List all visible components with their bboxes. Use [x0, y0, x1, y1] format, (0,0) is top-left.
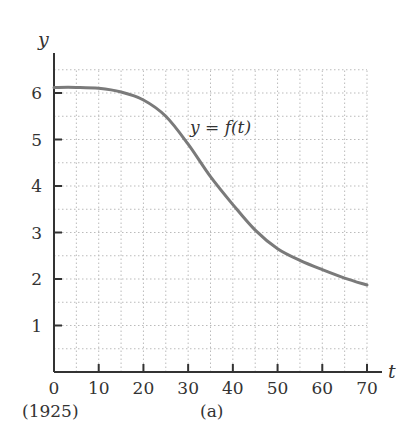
x-tick-label: 30 [177, 378, 199, 398]
curve-label: y = f(t) [189, 117, 251, 137]
y-tick-label: 1 [31, 316, 42, 336]
y-tick-label: 3 [31, 223, 42, 243]
x-tick-label: 60 [311, 378, 333, 398]
y-tick-label: 2 [31, 269, 42, 289]
x-tick-label: 20 [133, 378, 155, 398]
x-tick-label: 50 [267, 378, 289, 398]
x-axis-label: t [388, 360, 396, 382]
y-tick-label: 4 [31, 176, 42, 196]
y-tick-label: 5 [31, 130, 42, 150]
axes [54, 53, 382, 372]
x-tick-label: 0 [49, 378, 60, 398]
x-tick-label: 70 [356, 378, 378, 398]
origin-year-label: (1925) [22, 401, 79, 421]
x-tick-label: 10 [88, 378, 110, 398]
y-tick-label: 6 [31, 83, 42, 103]
grid [54, 70, 367, 372]
y-axis-label: y [37, 28, 49, 50]
x-tick-label: 40 [222, 378, 244, 398]
figure-caption: (a) [200, 401, 223, 421]
chart: 010203040506070123456 y t y = f(t) (1925… [0, 0, 414, 445]
